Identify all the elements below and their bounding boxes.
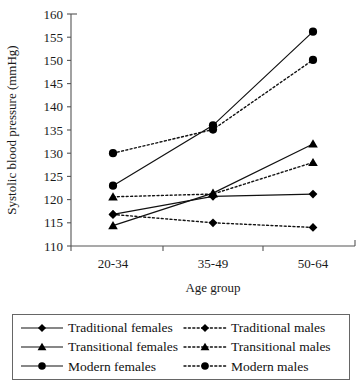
series-line-modern-males [113,60,313,153]
marker-diamond [109,210,118,219]
marker-diamond [38,324,46,332]
legend-item: Modern males [182,357,345,376]
legend-item: Traditional females [19,318,182,337]
marker-circle [201,363,209,371]
legend-label: Modern males [231,360,309,374]
marker-triangle [108,192,118,200]
x-tick-label: 20-34 [98,256,129,271]
marker-diamond [201,324,209,332]
legend-label: Traditional females [68,321,173,335]
marker-diamond [309,223,318,232]
series-line-modern-females [113,32,313,186]
marker-diamond [209,218,218,227]
legend-marker-triangle-icon [182,340,228,354]
x-axis-title: Age group [185,280,240,295]
y-tick-label: 160 [44,7,64,22]
y-tick-label: 125 [44,169,64,184]
marker-circle [109,182,117,190]
y-axis-title: Systolic blood pressure (mmHg) [4,45,19,214]
legend-marker-diamond-icon [19,321,65,335]
marker-triangle [308,158,318,166]
marker-circle [38,363,46,371]
y-tick-label: 140 [44,99,64,114]
x-tick-label: 35-49 [198,256,228,271]
y-tick-label: 110 [44,239,63,254]
marker-circle [109,149,117,157]
legend-item: Transitional males [182,337,345,356]
legend-label: Transitional females [68,340,178,354]
marker-triangle [308,139,318,147]
legend-item: Transitional females [19,337,182,356]
chart-figure: 11011512012513013514014515015516020-3435… [0,0,363,389]
legend-marker-circle-icon [19,359,65,373]
y-tick-label: 150 [44,53,64,68]
legend-label: Modern females [68,360,156,374]
legend-label: Transitional males [231,340,331,354]
line-chart-plot: 11011512012513013514014515015516020-3435… [0,0,363,310]
y-tick-label: 155 [44,30,64,45]
y-tick-label: 130 [44,146,64,161]
legend-marker-circle-icon [182,359,228,373]
legend-item: Traditional males [182,318,345,337]
y-tick-label: 115 [44,215,63,230]
marker-circle [309,28,317,36]
y-tick-label: 135 [44,123,64,138]
marker-circle [209,125,217,133]
y-tick-label: 145 [44,76,64,91]
legend-item: Modern females [19,357,182,376]
marker-circle [309,56,317,64]
legend-marker-triangle-icon [19,340,65,354]
x-tick-label: 50-64 [298,256,329,271]
legend-label: Traditional males [231,321,325,335]
chart-legend: Traditional femalesTraditional malesTran… [12,314,350,380]
legend-marker-diamond-icon [182,321,228,335]
series-line-transitional-females [113,144,313,226]
marker-diamond [309,190,318,199]
y-tick-label: 120 [44,192,64,207]
